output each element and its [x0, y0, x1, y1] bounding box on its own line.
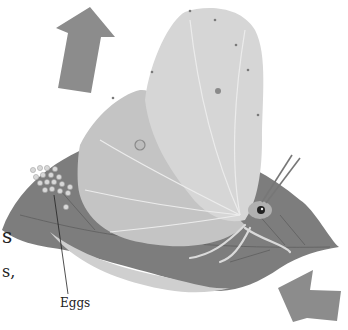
butterfly-illustration: s s, Eggs: [0, 0, 348, 330]
hind-wing-spot: [135, 140, 145, 150]
butterfly-eye: [257, 206, 265, 214]
eggs-label: Eggs: [60, 296, 90, 310]
text-fragment-2: s,: [2, 266, 15, 278]
arrow-up-icon: [56, 7, 115, 93]
fore-wing-spot: [215, 88, 221, 94]
text-fragment-1: s: [2, 224, 12, 248]
arrow-up-left-icon: [278, 270, 341, 322]
eye-highlight: [261, 208, 263, 210]
illustration-canvas: [0, 0, 348, 330]
